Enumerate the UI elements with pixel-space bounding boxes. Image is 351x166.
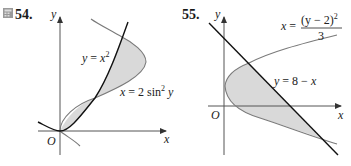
y-axis-label: y [50, 7, 57, 21]
x-axis-label: x [337, 108, 344, 122]
origin-label: O [211, 108, 220, 122]
y-axis-label: y [214, 7, 221, 21]
x-axis-label: x [163, 132, 170, 146]
problem-number: 55. [182, 7, 200, 22]
calculator-icon [3, 8, 13, 18]
problem-number: 54. [15, 7, 33, 22]
shaded-region-lower [60, 98, 95, 131]
parabola-label: x = (y − 2)2 3 [280, 12, 342, 43]
svg-text:x =: x = [280, 19, 296, 33]
parabola-denominator: 3 [318, 29, 324, 43]
origin-label: O [47, 134, 56, 148]
line-label: y = 8 − x [273, 74, 317, 88]
parabola-numerator: (y − 2)2 [301, 12, 338, 27]
figure-canvas: 54. y x O y = x2 x = 2 sin2 y 55. [0, 0, 351, 166]
sine-curve-label: x = 2 sin2 y [119, 84, 174, 99]
problem-55: 55. y x O x = (y − 2)2 3 y = 8 − x [182, 7, 344, 155]
problem-54: 54. y x O y = x2 x = 2 sin2 y [3, 7, 174, 155]
parabola-label: y = x2 [81, 50, 109, 65]
